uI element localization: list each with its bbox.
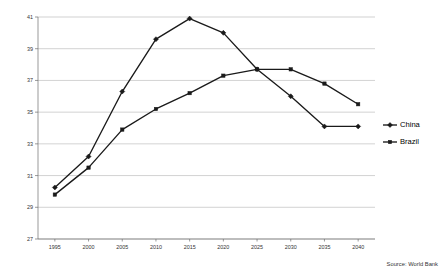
- legend-label-brazil: Brazil: [400, 137, 419, 146]
- x-tick-label: 2015: [184, 244, 196, 250]
- chart-background: [0, 0, 443, 276]
- x-tick-label: 2000: [83, 244, 95, 250]
- data-point-brazil: [255, 68, 258, 71]
- data-point-brazil: [154, 107, 157, 110]
- x-tick-label: 2040: [352, 244, 364, 250]
- x-tick-label: 2020: [217, 244, 229, 250]
- x-tick-label: 2010: [150, 244, 162, 250]
- data-point-brazil: [323, 82, 326, 85]
- x-tick-label: 2005: [116, 244, 128, 250]
- data-point-brazil: [289, 68, 292, 71]
- y-tick-label: 35: [27, 109, 33, 115]
- legend-marker-brazil: [388, 140, 391, 143]
- y-tick-label: 27: [27, 236, 33, 242]
- x-tick-label: 2030: [285, 244, 297, 250]
- source-note: Source: World Bank: [387, 261, 439, 267]
- y-tick-label: 31: [27, 173, 33, 179]
- legend-label-china: China: [400, 120, 421, 129]
- data-point-brazil: [356, 103, 359, 106]
- x-tick-label: 2035: [318, 244, 330, 250]
- y-tick-label: 29: [27, 204, 33, 210]
- line-chart: 2729313335373941 19952000200520102015202…: [0, 0, 443, 276]
- y-tick-label: 33: [27, 141, 33, 147]
- x-tick-label: 2025: [251, 244, 263, 250]
- data-point-brazil: [87, 166, 90, 169]
- y-tick-label: 37: [27, 77, 33, 83]
- data-point-brazil: [222, 74, 225, 77]
- data-point-brazil: [121, 128, 124, 131]
- data-point-brazil: [188, 91, 191, 94]
- y-tick-label: 39: [27, 46, 33, 52]
- x-tick-label: 1995: [49, 244, 61, 250]
- y-tick-label: 41: [27, 14, 33, 20]
- data-point-brazil: [53, 193, 56, 196]
- chart-container: 2729313335373941 19952000200520102015202…: [0, 0, 443, 276]
